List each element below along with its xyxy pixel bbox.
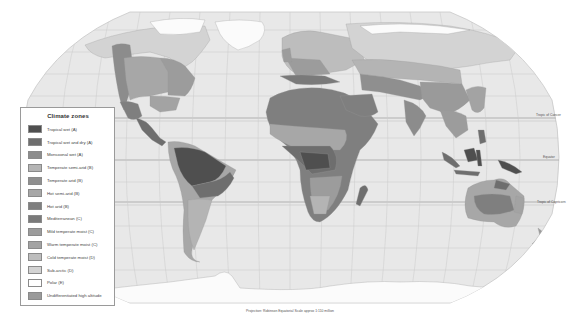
legend-item-polar: Polar (E) [28,277,108,290]
legend-label: Sub-arctic (D) [47,268,74,273]
legend-item-temperate-arid: Temperate arid (B) [28,174,108,187]
swatch-high-altitude [28,292,42,300]
equator-label: Equator [543,155,556,159]
climate-zones-legend: Climate zones Tropical wet (A) Tropical … [20,107,115,306]
legend-item-tropical-wet: Tropical wet (A) [28,123,108,136]
legend-label: Polar (E) [47,280,64,285]
legend-label: Hot semi-arid (B) [47,191,79,196]
legend-item-high-altitude: Undifferentiated high altitude [28,289,108,302]
legend-label: Mediterranean (C) [47,216,82,221]
legend-item-hot-arid: Hot arid (B) [28,200,108,213]
swatch-sub-arctic [28,266,42,274]
legend-label: Tropical wet and dry (A) [47,140,92,145]
tropic-of-cancer-label: Tropic of Cancer [536,113,562,117]
swatch-mild-temperate-moist [28,228,42,236]
swatch-temperate-semi-arid [28,164,42,172]
swatch-warm-temperate-moist [28,241,42,249]
projection-note: Projection: Robinson Equatorial Scale ap… [0,309,580,313]
legend-item-sub-arctic: Sub-arctic (D) [28,264,108,277]
swatch-temperate-arid [28,177,42,185]
legend-label: Undifferentiated high altitude [47,293,102,298]
legend-label: Cold temperate moist (D) [47,255,95,260]
swatch-tropical-wet-and-dry [28,138,42,146]
tropic-of-capricorn-label: Tropic of Capricorn [537,200,566,204]
legend-item-cold-temperate-moist: Cold temperate moist (D) [28,251,108,264]
legend-item-mediterranean: Mediterranean (C) [28,213,108,226]
swatch-hot-semi-arid [28,189,42,197]
swatch-hot-arid [28,202,42,210]
legend-item-hot-semi-arid: Hot semi-arid (B) [28,187,108,200]
legend-item-temperate-semi-arid: Temperate semi-arid (B) [28,161,108,174]
legend-label: Mild temperate moist (C) [47,229,94,234]
swatch-cold-temperate-moist [28,253,42,261]
legend-item-monsoonal-wet: Monsoonal wet (A) [28,149,108,162]
legend-label: Temperate semi-arid (B) [47,165,93,170]
swatch-tropical-wet [28,125,42,133]
swatch-monsoonal-wet [28,151,42,159]
legend-title: Climate zones [28,113,108,119]
legend-label: Temperate arid (B) [47,178,83,183]
swatch-polar [28,279,42,287]
legend-label: Tropical wet (A) [47,127,77,132]
legend-item-warm-temperate-moist: Warm temperate moist (C) [28,238,108,251]
swatch-mediterranean [28,215,42,223]
legend-label: Monsoonal wet (A) [47,152,83,157]
legend-label: Warm temperate moist (C) [47,242,97,247]
legend-item-mild-temperate-moist: Mild temperate moist (C) [28,225,108,238]
legend-item-tropical-wet-and-dry: Tropical wet and dry (A) [28,136,108,149]
legend-label: Hot arid (B) [47,204,69,209]
